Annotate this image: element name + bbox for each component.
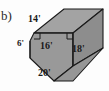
dimension-label-right-vertical: 18' [72, 44, 85, 54]
part-label: b) [1, 9, 12, 22]
geometry-figure: b) 14' 6' 16' 18' 20' [0, 0, 109, 91]
dimension-label-bottom-slant: 20' [38, 68, 51, 78]
dimension-label-left-vertical: 6' [17, 39, 24, 48]
dimension-label-top-slant: 14' [28, 14, 41, 24]
dimension-label-middle-horizontal: 16' [40, 41, 53, 51]
